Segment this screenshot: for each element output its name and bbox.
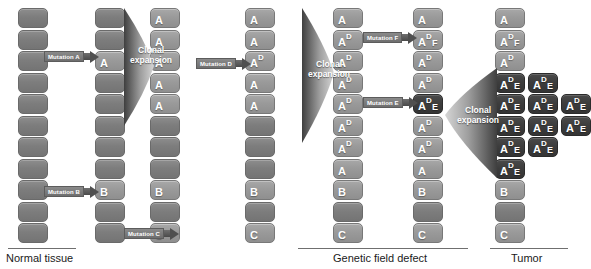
arrow-head-icon bbox=[170, 228, 179, 240]
mutation-c-label: Mutation C bbox=[124, 228, 164, 239]
column-6-mutation-e-f-cell-3: AD bbox=[413, 51, 443, 71]
column-2-mutation-a-b-cell-8 bbox=[95, 159, 125, 179]
cell-base-label: A bbox=[418, 80, 426, 91]
cell-superscript-label: D bbox=[426, 140, 432, 148]
cell-base-label: A bbox=[155, 80, 163, 91]
cell-superscript-label: D bbox=[508, 76, 514, 84]
mutation-a-label: Mutation A bbox=[44, 51, 84, 62]
column-3-clonal-a-cell-1: A bbox=[150, 8, 180, 28]
cell-base-label: A bbox=[250, 15, 258, 26]
tumor-cluster-cell-4: ADE bbox=[528, 137, 558, 157]
column-6-mutation-e-f-cell-2: ADF bbox=[413, 30, 443, 50]
cell-base-label: A bbox=[338, 123, 346, 134]
cell-base-label: A bbox=[418, 166, 426, 177]
section-rule-normal-tissue bbox=[8, 248, 76, 249]
cell-superscript-label: D bbox=[426, 76, 432, 84]
tumor-cluster-cell-2: ADE bbox=[528, 94, 558, 114]
section-rule-genetic-field-defect bbox=[298, 248, 468, 249]
tumor-cluster-cell-6: ADE bbox=[561, 116, 591, 136]
cell-superscript-label: D bbox=[508, 140, 514, 148]
cell-superscript-label: D bbox=[541, 140, 547, 148]
cell-base-label: A bbox=[533, 101, 541, 112]
column-2-mutation-a-b-cell-10 bbox=[95, 202, 125, 222]
cell-subscript-label: F bbox=[432, 39, 438, 48]
mutation-d-label: Mutation D bbox=[196, 58, 236, 69]
column-7-tumor-cell-9: B bbox=[495, 180, 525, 200]
column-3-clonal-a-cell-8 bbox=[150, 159, 180, 179]
cell-base-label: A bbox=[418, 101, 426, 112]
column-3-clonal-a-cell-5: A bbox=[150, 94, 180, 114]
cell-superscript-label: D bbox=[346, 54, 352, 62]
cell-base-label: B bbox=[155, 187, 163, 198]
cell-base-label: A bbox=[566, 101, 574, 112]
cell-base-label: A bbox=[500, 58, 508, 69]
column-5-clonal-d-cell-11: C bbox=[333, 223, 363, 243]
cell-base-label: A bbox=[338, 58, 346, 69]
cell-subscript-label: E bbox=[432, 103, 438, 112]
column-3-clonal-a-cell-2: A bbox=[150, 30, 180, 50]
cell-base-label: A bbox=[418, 37, 426, 48]
column-7-tumor-cell-5: ADE bbox=[495, 94, 525, 114]
column-2-mutation-a-b-cell-9: B bbox=[95, 180, 125, 200]
cell-base-label: A bbox=[155, 37, 163, 48]
column-4-mutation-d-cell-1: A bbox=[245, 8, 275, 28]
column-5-clonal-d-cell-9: B bbox=[333, 180, 363, 200]
column-7-tumor-cell-11: C bbox=[495, 223, 525, 243]
column-4-mutation-d-cell-8 bbox=[245, 159, 275, 179]
section-caption-genetic-field-defect: Genetic field defect bbox=[333, 252, 427, 264]
cell-base-label: A bbox=[338, 144, 346, 155]
cell-subscript-label: E bbox=[547, 146, 553, 155]
column-4-mutation-d-cell-10 bbox=[245, 202, 275, 222]
cell-superscript-label: D bbox=[258, 54, 264, 62]
cell-subscript-label: E bbox=[514, 146, 520, 155]
column-3-clonal-a-cell-9: B bbox=[150, 180, 180, 200]
cell-base-label: A bbox=[500, 37, 508, 48]
cell-base-label: A bbox=[338, 37, 346, 48]
cell-superscript-label: D bbox=[426, 54, 432, 62]
column-4-mutation-d-cell-9: B bbox=[245, 180, 275, 200]
cell-base-label: A bbox=[500, 101, 508, 112]
cell-base-label: C bbox=[418, 230, 426, 241]
clonal-expansion-1: Clonal expansion bbox=[124, 8, 154, 126]
section-rule-tumor bbox=[490, 248, 568, 249]
cell-superscript-label: D bbox=[508, 54, 514, 62]
cell-subscript-label: E bbox=[547, 82, 553, 91]
column-1-normal-cell-4 bbox=[18, 73, 48, 93]
column-5-clonal-d-cell-5: AD bbox=[333, 94, 363, 114]
mutation-arrow-mutation-e: Mutation E bbox=[363, 96, 418, 109]
cell-superscript-label: D bbox=[541, 76, 547, 84]
cell-base-label: A bbox=[566, 123, 574, 134]
column-5-clonal-d-cell-7: AD bbox=[333, 137, 363, 157]
section-caption-tumor: Tumor bbox=[511, 252, 542, 264]
column-1-normal-cell-11 bbox=[18, 223, 48, 243]
column-1-normal-cell-8 bbox=[18, 159, 48, 179]
cell-base-label: A bbox=[500, 144, 508, 155]
column-2-mutation-a-b-cell-1 bbox=[95, 8, 125, 28]
column-7-tumor-cell-4: ADE bbox=[495, 73, 525, 93]
column-4-mutation-d-cell-6 bbox=[245, 116, 275, 136]
cell-superscript-label: D bbox=[346, 33, 352, 41]
column-3-clonal-a-cell-3: A bbox=[150, 51, 180, 71]
column-4-mutation-d-cell-4: A bbox=[245, 73, 275, 93]
column-6-mutation-e-f-cell-9: B bbox=[413, 180, 443, 200]
arrow-head-icon bbox=[408, 32, 417, 44]
mutation-arrow-mutation-f: Mutation F bbox=[363, 31, 417, 44]
column-2-mutation-a-b-cell-4 bbox=[95, 73, 125, 93]
column-2-mutation-a-b-cell-11 bbox=[95, 223, 125, 243]
cell-subscript-label: E bbox=[514, 103, 520, 112]
cell-superscript-label: D bbox=[426, 119, 432, 127]
column-1-normal-cell-7 bbox=[18, 137, 48, 157]
column-7-tumor-cell-1: A bbox=[495, 8, 525, 28]
cell-base-label: A bbox=[418, 15, 426, 26]
cell-base-label: A bbox=[100, 58, 108, 69]
column-3-clonal-a-cell-7 bbox=[150, 137, 180, 157]
cell-superscript-label: D bbox=[426, 33, 432, 41]
cell-base-label: A bbox=[338, 80, 346, 91]
cell-base-label: A bbox=[418, 123, 426, 134]
column-5-clonal-d-cell-1: A bbox=[333, 8, 363, 28]
cell-subscript-label: F bbox=[514, 39, 520, 48]
column-6-mutation-e-f-cell-7: AD bbox=[413, 137, 443, 157]
cell-superscript-label: D bbox=[508, 119, 514, 127]
column-4-mutation-d-cell-7 bbox=[245, 137, 275, 157]
